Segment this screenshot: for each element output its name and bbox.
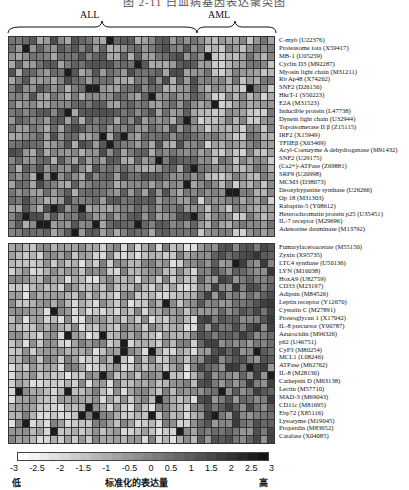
heatmap-cell	[184, 213, 190, 220]
heatmap-cell	[177, 372, 183, 379]
heatmap-cell	[121, 149, 127, 156]
heatmap-cell	[65, 364, 71, 371]
heatmap-cell	[156, 37, 162, 44]
heatmap-cell	[37, 205, 43, 212]
heatmap-cell	[128, 213, 134, 220]
heatmap-cell	[142, 276, 148, 283]
heatmap-cell	[261, 181, 267, 188]
heatmap-cell	[114, 332, 120, 339]
heatmap-cell	[72, 348, 78, 355]
heatmap-cell	[128, 117, 134, 124]
heatmap-cell	[198, 404, 204, 411]
heatmap-cell	[79, 173, 85, 180]
heatmap-cell	[16, 85, 22, 92]
heatmap-cell	[226, 173, 232, 180]
heatmap-cell	[170, 276, 176, 283]
heatmap-cell	[72, 189, 78, 196]
heatmap-cell	[114, 45, 120, 52]
heatmap-cell	[170, 244, 176, 251]
heatmap-cell	[16, 340, 22, 347]
heatmap-cell	[58, 117, 64, 124]
heatmap-cell	[128, 348, 134, 355]
heatmap-cell	[170, 93, 176, 100]
heatmap-cell	[198, 189, 204, 196]
heatmap-cell	[107, 340, 113, 347]
heatmap-cell	[37, 380, 43, 387]
heatmap-cell	[184, 284, 190, 291]
heatmap-cell	[51, 181, 57, 188]
heatmap-cell	[121, 229, 127, 236]
heatmap-cell	[226, 300, 232, 307]
heatmap-cell	[135, 348, 141, 355]
heatmap-cell	[128, 61, 134, 68]
heatmap-cell	[254, 324, 260, 331]
heatmap-cell	[9, 221, 15, 228]
heatmap-cell	[226, 260, 232, 267]
heatmap-cell	[93, 340, 99, 347]
heatmap-cell	[212, 117, 218, 124]
colorbar-segment	[81, 453, 91, 460]
heatmap-cell	[9, 181, 15, 188]
heatmap-cell	[205, 340, 211, 347]
heatmap-cell	[86, 141, 92, 148]
heatmap-cell	[114, 181, 120, 188]
heatmap-cell	[9, 141, 15, 148]
heatmap-cell	[23, 85, 29, 92]
heatmap-cell	[121, 221, 127, 228]
heatmap-cell	[100, 332, 106, 339]
heatmap-cell	[198, 284, 204, 291]
gene-label: MCL1 (L08246)	[279, 353, 362, 361]
heatmap-cell	[100, 388, 106, 395]
heatmap-cell	[177, 388, 183, 395]
colorbar	[17, 452, 269, 461]
heatmap-cell	[240, 364, 246, 371]
heatmap-cell	[156, 292, 162, 299]
heatmap-cell	[254, 205, 260, 212]
heatmap-cell	[261, 252, 267, 259]
heatmap-cell	[37, 268, 43, 275]
heatmap-cell	[44, 276, 50, 283]
heatmap-cell	[261, 356, 267, 363]
heatmap-cell	[149, 428, 155, 435]
heatmap-cell	[205, 37, 211, 44]
heatmap-cell	[219, 85, 225, 92]
heatmap-cell	[177, 149, 183, 156]
heatmap-cell	[51, 396, 57, 403]
heatmap-cell	[142, 173, 148, 180]
heatmap-cell	[212, 101, 218, 108]
heatmap-cell	[79, 61, 85, 68]
heatmap-cell	[198, 173, 204, 180]
heatmap-cell	[37, 316, 43, 323]
heatmap-cell	[86, 157, 92, 164]
heatmap-cell	[128, 284, 134, 291]
heatmap-cell	[268, 157, 274, 164]
heatmap-cell	[9, 117, 15, 124]
heatmap-cell	[65, 404, 71, 411]
heatmap-cell	[142, 157, 148, 164]
heatmap-cell	[170, 77, 176, 84]
heatmap-cell	[128, 205, 134, 212]
heatmap-cell	[79, 428, 85, 435]
heatmap-cell	[268, 165, 274, 172]
heatmap-cell	[177, 221, 183, 228]
heatmap-cell	[72, 229, 78, 236]
heatmap-cell	[212, 149, 218, 156]
heatmap-cell	[261, 244, 267, 251]
heatmap-cell	[254, 229, 260, 236]
heatmap-cell	[184, 77, 190, 84]
heatmap-cell	[142, 165, 148, 172]
heatmap-cell	[205, 69, 211, 76]
heatmap-cell	[44, 69, 50, 76]
heatmap-cell	[128, 268, 134, 275]
heatmap-cell	[198, 292, 204, 299]
heatmap-cell	[128, 412, 134, 419]
heatmap-cell	[156, 165, 162, 172]
heatmap-cell	[30, 189, 36, 196]
heatmap-cell	[107, 85, 113, 92]
heatmap-cell	[37, 69, 43, 76]
heatmap-cell	[79, 205, 85, 212]
heatmap-cell	[240, 436, 246, 443]
heatmap-cell	[205, 308, 211, 315]
heatmap-cell	[114, 292, 120, 299]
heatmap-cell	[65, 221, 71, 228]
